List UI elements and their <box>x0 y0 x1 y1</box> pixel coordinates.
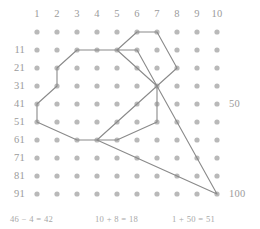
grid-dot <box>214 173 219 178</box>
grid-dot <box>214 137 219 142</box>
grid-dot <box>34 155 39 160</box>
grid-dot <box>54 47 59 52</box>
grid-dot <box>214 47 219 52</box>
grid-dot <box>214 119 219 124</box>
grid-dot <box>214 101 219 106</box>
grid-dot <box>134 191 139 196</box>
grid-dot <box>114 83 119 88</box>
grid-dot <box>134 83 139 88</box>
worksheet-canvas: 12345678910 112131415161718191 50100 46 … <box>0 0 260 229</box>
column-header-4: 4 <box>87 8 107 19</box>
grid-dot <box>174 83 179 88</box>
grid-dot <box>154 155 159 160</box>
row-header-31: 31 <box>5 80 25 91</box>
row-header-71: 71 <box>5 152 25 163</box>
row-header-51: 51 <box>5 116 25 127</box>
grid-dot <box>194 137 199 142</box>
grid-dot <box>54 29 59 34</box>
grid-dot <box>114 155 119 160</box>
grid-dot <box>154 137 159 142</box>
grid-dot <box>74 83 79 88</box>
grid-dot <box>174 47 179 52</box>
grid-dot <box>34 65 39 70</box>
equation-2: 10 + 8 = 18 <box>95 214 138 224</box>
grid-dot <box>214 29 219 34</box>
grid-dot <box>74 65 79 70</box>
grid-dot <box>194 119 199 124</box>
grid-dot <box>34 29 39 34</box>
heptagon-path <box>117 32 177 86</box>
grid-dot <box>194 47 199 52</box>
grid-dot <box>34 137 39 142</box>
grid-dot <box>114 29 119 34</box>
grid-dot <box>174 155 179 160</box>
grid-dot <box>94 29 99 34</box>
grid-dot <box>194 65 199 70</box>
column-header-3: 3 <box>67 8 87 19</box>
column-header-9: 9 <box>187 8 207 19</box>
row-header-41: 41 <box>5 98 25 109</box>
grid-dot <box>194 191 199 196</box>
grid-dot <box>94 173 99 178</box>
column-header-5: 5 <box>107 8 127 19</box>
octagon-path <box>37 50 157 140</box>
grid-dot <box>114 65 119 70</box>
dot-grid-and-shapes <box>0 0 260 229</box>
grid-dot <box>214 83 219 88</box>
grid-dot <box>54 119 59 124</box>
grid-dot <box>74 101 79 106</box>
grid-dot <box>154 191 159 196</box>
column-header-1: 1 <box>27 8 47 19</box>
grid-dot <box>194 173 199 178</box>
grid-dot <box>54 137 59 142</box>
grid-dot <box>114 191 119 196</box>
grid-dot <box>74 119 79 124</box>
grid-dot <box>74 155 79 160</box>
grid-dot <box>194 101 199 106</box>
grid-dot <box>194 83 199 88</box>
grid-dot <box>214 65 219 70</box>
grid-dot <box>114 173 119 178</box>
column-header-7: 7 <box>147 8 167 19</box>
grid-dot <box>154 47 159 52</box>
grid-dot <box>54 173 59 178</box>
row-header-21: 21 <box>5 62 25 73</box>
grid-dot <box>74 173 79 178</box>
grid-dot <box>114 101 119 106</box>
grid-dot <box>74 29 79 34</box>
row-header-61: 61 <box>5 134 25 145</box>
grid-dot <box>174 137 179 142</box>
grid-dot <box>94 65 99 70</box>
grid-dot <box>54 101 59 106</box>
grid-dot <box>74 191 79 196</box>
grid-dot <box>134 173 139 178</box>
grid-dot <box>134 137 139 142</box>
column-header-10: 10 <box>207 8 227 19</box>
grid-dot <box>94 119 99 124</box>
grid-dot <box>174 29 179 34</box>
grid-dot <box>54 155 59 160</box>
row-header-91: 91 <box>5 188 25 199</box>
equation-row: 46 − 4 = 4210 + 8 = 181 + 50 = 51 <box>0 212 260 228</box>
grid-dot <box>94 101 99 106</box>
equation-3: 1 + 50 = 51 <box>172 214 215 224</box>
grid-dot <box>134 119 139 124</box>
column-header-6: 6 <box>127 8 147 19</box>
grid-dot <box>34 173 39 178</box>
grid-dot <box>94 155 99 160</box>
grid-dot <box>214 155 219 160</box>
row-header-81: 81 <box>5 170 25 181</box>
grid-dot <box>154 65 159 70</box>
grid-dot <box>174 191 179 196</box>
column-header-2: 2 <box>47 8 67 19</box>
grid-dot <box>34 191 39 196</box>
row-header-11: 11 <box>5 44 25 55</box>
side-label-100: 100 <box>229 188 255 199</box>
grid-dot <box>34 83 39 88</box>
grid-dot <box>174 101 179 106</box>
grid-dot <box>94 83 99 88</box>
column-header-8: 8 <box>167 8 187 19</box>
side-label-50: 50 <box>229 98 255 109</box>
grid-dot <box>154 173 159 178</box>
equation-1: 46 − 4 = 42 <box>10 214 53 224</box>
